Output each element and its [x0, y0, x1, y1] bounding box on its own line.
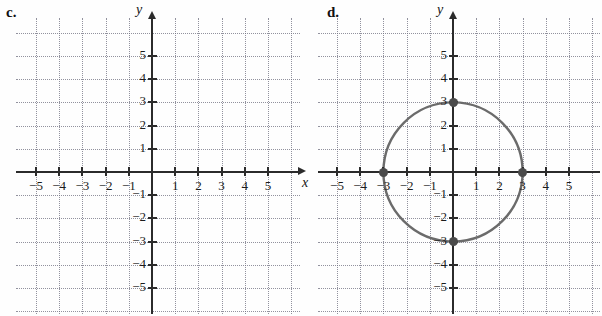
x-tick — [267, 167, 269, 176]
y-tick — [449, 194, 458, 196]
x-tick-label: 1 — [464, 178, 488, 194]
x-tick-label: 1 — [163, 178, 187, 194]
y-tick-label: 3 — [423, 93, 447, 109]
x-tick-label: 3 — [511, 178, 535, 194]
grid-line-vertical — [291, 18, 292, 314]
y-tick-label: −2 — [122, 209, 146, 225]
y-tick-label: 4 — [423, 70, 447, 86]
y-tick-label: −1 — [122, 186, 146, 202]
grid-line-vertical — [106, 18, 107, 314]
y-tick — [148, 125, 157, 127]
graph-grid-c — [16, 18, 300, 314]
y-axis-label-c: y — [136, 2, 142, 18]
panel-d: d. −5−4−3−2−112345−5−4−3−2−112345y — [301, 0, 602, 316]
y-tick-label: 1 — [423, 140, 447, 156]
x-tick — [81, 167, 83, 176]
x-tick-label: −4 — [348, 178, 372, 194]
x-tick — [336, 167, 338, 176]
y-tick-label: −2 — [423, 209, 447, 225]
y-axis-arrow-c — [148, 11, 156, 19]
y-tick — [449, 125, 458, 127]
data-point — [379, 168, 388, 177]
x-tick — [406, 167, 408, 176]
grid-line-vertical — [245, 18, 246, 314]
y-tick-label: −1 — [423, 186, 447, 202]
x-tick — [174, 167, 176, 176]
x-tick — [498, 167, 500, 176]
y-tick-label: 5 — [122, 47, 146, 63]
y-tick-label: 2 — [423, 117, 447, 133]
data-point — [449, 237, 458, 246]
grid-line-vertical — [175, 18, 176, 314]
y-tick-label: 4 — [122, 70, 146, 86]
y-tick — [148, 264, 157, 266]
x-tick — [568, 167, 570, 176]
x-tick — [244, 167, 246, 176]
x-tick — [58, 167, 60, 176]
plot-area-d: −5−4−3−2−112345−5−4−3−2−112345y — [301, 0, 602, 316]
x-tick — [105, 167, 107, 176]
grid-line-vertical — [82, 18, 83, 314]
plot-area-c: −5−4−3−2−112345−5−4−3−2−112345yx — [0, 0, 301, 316]
x-tick-label: −5 — [325, 178, 349, 194]
grid-line-vertical — [268, 18, 269, 314]
y-axis-arrow-d — [449, 11, 457, 19]
y-tick — [449, 264, 458, 266]
y-tick-label: −4 — [423, 256, 447, 272]
x-tick — [128, 167, 130, 176]
y-axis-c — [151, 18, 153, 314]
x-tick — [429, 167, 431, 176]
x-tick-label: −3 — [70, 178, 94, 194]
y-tick-label: −3 — [423, 233, 447, 249]
grid-line-vertical — [222, 18, 223, 314]
y-tick-label: 1 — [122, 140, 146, 156]
y-tick-label: −5 — [122, 279, 146, 295]
y-tick-label: 3 — [122, 93, 146, 109]
x-tick — [35, 167, 37, 176]
y-tick — [449, 287, 458, 289]
y-axis-label-d: y — [437, 2, 443, 18]
x-tick — [475, 167, 477, 176]
y-tick — [449, 217, 458, 219]
data-point — [449, 98, 458, 107]
x-tick-label: 4 — [534, 178, 558, 194]
y-tick — [148, 55, 157, 57]
grid-line-vertical — [59, 18, 60, 314]
y-tick — [148, 217, 157, 219]
x-tick — [545, 167, 547, 176]
x-tick-label: −3 — [371, 178, 395, 194]
y-tick — [148, 148, 157, 150]
y-tick — [148, 78, 157, 80]
y-tick — [148, 194, 157, 196]
x-tick — [197, 167, 199, 176]
y-tick-label: 2 — [122, 117, 146, 133]
x-tick-label: −2 — [395, 178, 419, 194]
y-axis-d — [452, 18, 454, 314]
x-tick — [359, 167, 361, 176]
x-tick-label: 4 — [233, 178, 257, 194]
y-tick — [148, 287, 157, 289]
y-tick — [148, 101, 157, 103]
x-tick-label: −4 — [47, 178, 71, 194]
x-tick-label: 3 — [210, 178, 234, 194]
x-tick-label: 5 — [557, 178, 581, 194]
y-tick-label: −5 — [423, 279, 447, 295]
y-tick — [449, 55, 458, 57]
x-tick-label: 2 — [487, 178, 511, 194]
data-point — [518, 168, 527, 177]
x-tick-label: −5 — [24, 178, 48, 194]
y-tick-label: 5 — [423, 47, 447, 63]
panel-c: c. −5−4−3−2−112345−5−4−3−2−112345yx — [0, 0, 301, 316]
y-tick — [449, 148, 458, 150]
y-tick-label: −4 — [122, 256, 146, 272]
y-tick — [148, 241, 157, 243]
x-tick-label: 5 — [256, 178, 280, 194]
grid-line-vertical — [198, 18, 199, 314]
y-tick — [449, 78, 458, 80]
x-tick — [221, 167, 223, 176]
x-tick-label: −2 — [94, 178, 118, 194]
x-tick-label: 2 — [186, 178, 210, 194]
grid-line-vertical — [36, 18, 37, 314]
y-tick-label: −3 — [122, 233, 146, 249]
